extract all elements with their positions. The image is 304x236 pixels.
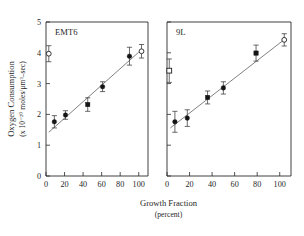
marker-filled-circle (173, 119, 178, 124)
data-point (253, 45, 258, 61)
data-point (172, 111, 177, 132)
data-point (185, 110, 190, 127)
y-tick-label: 3 (37, 80, 41, 89)
marker-open-square (167, 68, 172, 73)
plot-frame (46, 22, 148, 176)
marker-open-circle (139, 49, 144, 54)
data-point (221, 82, 226, 94)
marker-filled-circle (100, 84, 105, 89)
x-tick-label: 20 (60, 180, 68, 189)
x-tick-label: 80 (116, 180, 124, 189)
y-tick-label: 5 (37, 18, 41, 27)
data-point (139, 44, 144, 58)
panel-title-9l: 9L (176, 27, 186, 37)
panel-9l: 0204060801009L (165, 22, 291, 189)
x-tick-label: 60 (98, 180, 106, 189)
x-tick-label: 0 (44, 180, 48, 189)
y-tick-label: 1 (37, 141, 41, 150)
marker-filled-square (86, 102, 90, 106)
data-point (63, 111, 68, 120)
y-tick-label: 0 (37, 172, 41, 181)
data-point (282, 34, 287, 46)
y-tick-label: 2 (37, 110, 41, 119)
x-tick-label: 100 (274, 180, 286, 189)
data-point (46, 46, 51, 62)
x-tick-label: 40 (208, 180, 216, 189)
data-point (205, 91, 210, 104)
marker-open-circle (282, 37, 287, 42)
regression-line (49, 52, 139, 132)
x-tick-label: 80 (253, 180, 261, 189)
x-tick-label: 60 (231, 180, 239, 189)
x-axis-title-line2: (percent) (155, 210, 183, 219)
x-tick-label: 100 (133, 180, 145, 189)
marker-filled-circle (127, 54, 132, 59)
y-tick-label: 4 (37, 49, 41, 58)
panel-emt6: 012345020406080100EMT6 (37, 18, 148, 189)
y-axis-title-line2: (x 10⁻²⁰ moles/μm³–sec) (18, 61, 27, 137)
marker-filled-circle (52, 119, 57, 124)
scatter-plot-figure: 012345020406080100EMT60204060801009LGrow… (0, 0, 304, 236)
x-tick-label: 20 (185, 180, 193, 189)
marker-filled-circle (221, 86, 226, 91)
plot-frame (167, 22, 291, 176)
marker-filled-square (205, 95, 209, 99)
marker-filled-circle (63, 113, 68, 118)
marker-filled-square (254, 51, 258, 55)
data-point (85, 98, 90, 112)
y-axis-title-line1: Oxygen Consumption (6, 60, 16, 136)
figure-container: 012345020406080100EMT60204060801009LGrow… (0, 0, 304, 236)
marker-open-circle (46, 51, 51, 56)
marker-filled-circle (185, 116, 190, 121)
x-tick-label: 0 (165, 180, 169, 189)
x-axis-title-line1: Growth Fraction (140, 198, 198, 208)
panel-title-emt6: EMT6 (55, 27, 78, 37)
x-tick-label: 40 (79, 180, 87, 189)
